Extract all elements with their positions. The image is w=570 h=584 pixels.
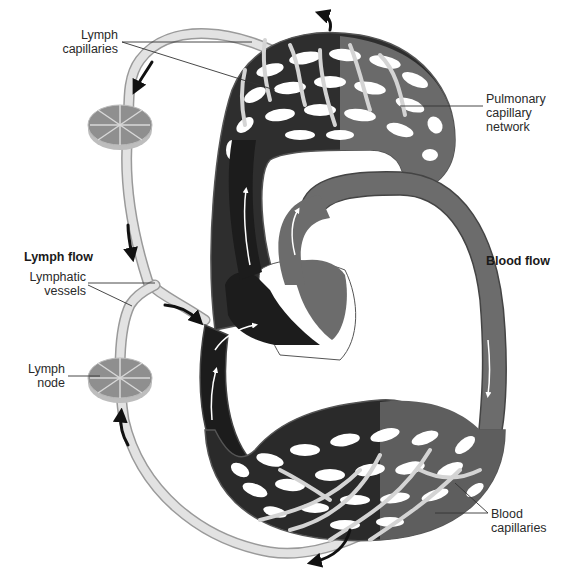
label-line: Blood [491,507,547,521]
label-line: Lymphatic [10,270,86,284]
label-pulmonary-capillary-network: Pulmonary capillary network [486,92,546,134]
label-lymphatic-vessels: Lymphatic vessels [10,270,86,298]
label-line: node [10,376,65,390]
label-line: capillaries [40,42,118,56]
label-blood-capillaries: Blood capillaries [491,507,547,535]
label-line: network [486,120,546,134]
section-lymph-flow: Lymph flow [24,250,93,264]
label-line: Lymph [40,28,118,42]
label-lymph-node: Lymph node [10,362,65,390]
label-line: capillaries [491,521,547,535]
label-line: Pulmonary [486,92,546,106]
label-line: vessels [10,284,86,298]
lymph-node-upper-shape [88,105,152,150]
section-blood-flow: Blood flow [486,254,550,268]
lymph-node-lower-shape [88,358,152,403]
label-line: capillary [486,106,546,120]
label-line: Lymph [10,362,65,376]
label-lymph-capillaries: Lymph capillaries [40,28,118,56]
